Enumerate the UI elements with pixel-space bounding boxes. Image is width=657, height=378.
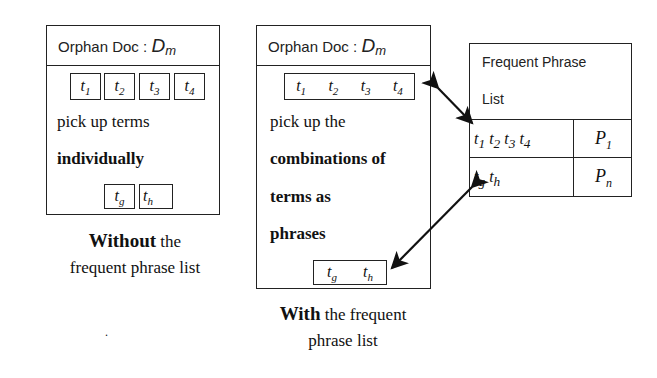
connector-arrows xyxy=(0,0,657,378)
double-arrow-t1t4 xyxy=(438,88,472,123)
double-arrow-tgth xyxy=(392,187,472,268)
